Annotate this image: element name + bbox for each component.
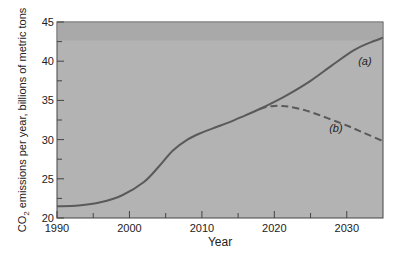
y-tick-label: 30 [42,134,54,146]
y-tick-label: 20 [42,212,54,224]
y-tick-label: 40 [42,55,54,67]
x-tick-label: 2030 [335,222,359,234]
x-tick-label: 2000 [117,222,141,234]
series-label: (a) [358,55,372,67]
plot-area [57,22,383,218]
x-axis-label: Year [208,235,232,249]
y-axis-label: CO2 emissions per year, billions of metr… [16,7,31,232]
x-tick-label: 2020 [262,222,286,234]
plot-top-band [58,23,383,41]
y-tick-label: 45 [42,16,54,28]
series-label: (b) [329,122,343,134]
x-tick-label: 2010 [190,222,214,234]
co2-emissions-chart: 19902000201020202030202530354045 Year CO… [0,0,404,264]
y-tick-label: 35 [42,94,54,106]
y-tick-label: 25 [42,173,54,185]
